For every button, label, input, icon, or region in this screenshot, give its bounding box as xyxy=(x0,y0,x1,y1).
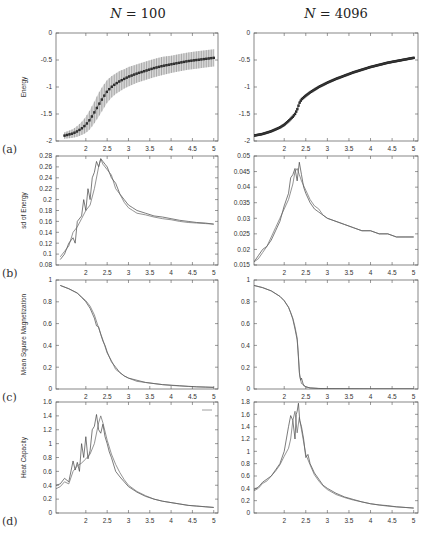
x-tick-label: 5 xyxy=(412,393,416,400)
y-tick-label: 0.22 xyxy=(39,185,52,192)
plot-area xyxy=(63,49,215,139)
y-tick-label: 0.045 xyxy=(234,168,251,175)
series-line-1 xyxy=(254,285,414,388)
y-tick-label: 1.8 xyxy=(241,398,250,405)
series-line-1 xyxy=(254,162,414,262)
y-tick-label: 0.18 xyxy=(39,207,52,214)
x-tick-label: 5 xyxy=(212,145,216,152)
series-line-2 xyxy=(254,285,414,388)
y-tick-label: 0 xyxy=(246,385,250,392)
panel-b-n100: 22.533.544.550.080.10.120.140.160.180.20… xyxy=(20,152,218,276)
series-line-2 xyxy=(60,285,213,387)
y-tick-label: 0.04 xyxy=(237,183,250,190)
y-tick-label: -0.5 xyxy=(41,56,53,63)
x-tick-label: 3.5 xyxy=(344,269,353,276)
y-tick-label: 0.2 xyxy=(241,364,250,371)
axis-frame xyxy=(254,402,418,513)
x-tick-label: 2 xyxy=(84,393,88,400)
series-line-1 xyxy=(60,285,213,387)
x-tick-label: 4.5 xyxy=(388,145,397,152)
x-tick-label: 4.5 xyxy=(388,517,397,524)
x-tick-label: 2 xyxy=(84,269,88,276)
axis-frame xyxy=(254,156,418,265)
y-tick-label: 0.26 xyxy=(39,163,52,170)
x-tick-label: 3.5 xyxy=(344,517,353,524)
plot-area xyxy=(254,285,414,388)
panel-label-d: (d) xyxy=(2,515,18,528)
y-tick-label: 0.1 xyxy=(43,250,52,257)
plot-area xyxy=(60,159,213,260)
x-tick-label: 3.5 xyxy=(145,393,154,400)
plot-area xyxy=(253,57,415,137)
x-tick-label: 3 xyxy=(326,517,330,524)
y-tick-label: 1.4 xyxy=(241,423,250,430)
y-tick-label: 1.6 xyxy=(241,411,250,418)
x-tick-label: 4.5 xyxy=(188,145,197,152)
x-tick-label: 4 xyxy=(169,145,173,152)
x-tick-label: 3.5 xyxy=(344,145,353,152)
x-tick-label: 2.5 xyxy=(103,269,112,276)
error-band xyxy=(254,57,414,137)
panel-label-c: (c) xyxy=(2,391,17,404)
x-tick-label: 3 xyxy=(326,269,330,276)
panel-c-n100: 22.533.544.5500.20.40.60.81Mean Square M… xyxy=(20,276,218,400)
axis-frame xyxy=(254,33,418,141)
x-tick-label: 2.5 xyxy=(301,393,310,400)
y-tick-label: 1.2 xyxy=(241,435,250,442)
y-tick-label: 0.4 xyxy=(241,485,250,492)
x-tick-label: 4 xyxy=(369,269,373,276)
x-tick-label: 2.5 xyxy=(301,517,310,524)
x-tick-label: 2 xyxy=(282,269,286,276)
panel-a-n100: 22.533.544.550-0.5-1-1.5-2Energy xyxy=(20,29,218,152)
x-tick-label: 3 xyxy=(326,145,330,152)
y-tick-label: -1 xyxy=(46,83,52,90)
y-tick-label: 0.8 xyxy=(241,298,250,305)
y-tick-label: 0.12 xyxy=(39,240,52,247)
y-tick-label: 0.6 xyxy=(241,320,250,327)
y-tick-label: 0.14 xyxy=(39,229,52,236)
y-tick-label: 0 xyxy=(246,509,250,516)
x-tick-label: 3 xyxy=(127,269,131,276)
y-tick-label: 0.05 xyxy=(237,152,250,159)
x-tick-label: 4.5 xyxy=(388,269,397,276)
series-line-1 xyxy=(60,159,213,260)
x-tick-label: 4 xyxy=(369,517,373,524)
y-axis-label: Heat Capacity xyxy=(20,436,28,478)
plot-area xyxy=(254,162,414,262)
x-tick-label: 3.5 xyxy=(145,145,154,152)
y-tick-label: 0.8 xyxy=(43,454,52,461)
y-tick-label: -2 xyxy=(244,137,250,144)
x-tick-label: 5 xyxy=(212,393,216,400)
y-tick-label: 0.4 xyxy=(241,342,250,349)
y-tick-label: 0.8 xyxy=(241,460,250,467)
y-tick-label: 0.2 xyxy=(241,497,250,504)
y-tick-label: -1.5 xyxy=(41,110,53,117)
y-tick-label: -1 xyxy=(244,83,250,90)
x-tick-label: 2.5 xyxy=(103,517,112,524)
series-line-2 xyxy=(254,168,414,261)
series-line-2 xyxy=(60,159,213,257)
x-tick-label: 4 xyxy=(169,393,173,400)
panel-d-n4096: 22.533.544.5500.20.40.60.811.21.41.61.8 xyxy=(241,398,418,524)
x-tick-label: 2 xyxy=(282,517,286,524)
series-line-1 xyxy=(56,414,214,507)
x-tick-label: 2.5 xyxy=(103,145,112,152)
y-tick-label: 1.6 xyxy=(43,398,52,405)
x-tick-label: 3 xyxy=(127,145,131,152)
y-tick-label: 1 xyxy=(246,448,250,455)
x-tick-label: 4.5 xyxy=(188,517,197,524)
x-tick-label: 5 xyxy=(412,517,416,524)
figure: N = 100 N = 4096 (a) (b) (c) (d) 22.533.… xyxy=(0,0,438,544)
x-tick-label: 3.5 xyxy=(145,517,154,524)
y-tick-label: 1 xyxy=(48,276,52,283)
x-tick-label: 2.5 xyxy=(103,393,112,400)
x-tick-label: 2 xyxy=(84,517,88,524)
x-tick-label: 5 xyxy=(212,269,216,276)
y-tick-label: 0 xyxy=(48,509,52,516)
x-tick-label: 3.5 xyxy=(145,269,154,276)
panel-d-n100: 22.533.544.5500.20.40.60.811.21.41.6Heat… xyxy=(20,398,218,524)
x-tick-label: 2 xyxy=(282,393,286,400)
x-tick-label: 4.5 xyxy=(388,393,397,400)
series-line-2 xyxy=(254,411,414,508)
y-tick-label: 0.6 xyxy=(241,472,250,479)
